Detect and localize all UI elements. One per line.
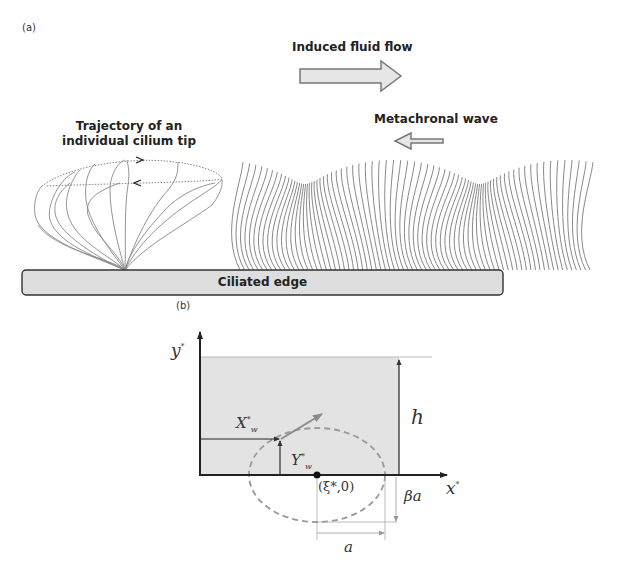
h-label: h xyxy=(411,405,424,429)
y-axis-label: y* xyxy=(171,340,185,360)
Xw-label: X*w xyxy=(236,414,258,434)
cilia-field xyxy=(232,160,593,270)
a-label: a xyxy=(344,538,353,556)
induced-flow-label: Induced fluid flow xyxy=(292,40,413,54)
induced-flow-arrow-icon xyxy=(300,61,401,91)
ellipse-center-dot xyxy=(314,472,321,479)
Yw-label: Y*w xyxy=(291,451,312,471)
ellipse-center-label: (ξ*,0) xyxy=(318,479,354,494)
panel-b-label: (b) xyxy=(176,300,190,311)
trajectory-label-line2: individual cilium tip xyxy=(52,134,206,148)
trajectory-label-line1: Trajectory of an xyxy=(52,119,206,133)
x-axis-label: x* xyxy=(446,478,460,498)
metachronal-wave-label: Metachronal wave xyxy=(374,112,498,126)
cilium-trajectory xyxy=(35,160,223,270)
metachronal-wave-arrow-icon xyxy=(395,133,443,149)
trajectory-forward-arrow-icon xyxy=(136,157,143,163)
ciliated-edge-label: Ciliated edge xyxy=(22,275,503,289)
beta-a-label: βa xyxy=(404,487,422,505)
panel-a-label: (a) xyxy=(22,22,36,33)
